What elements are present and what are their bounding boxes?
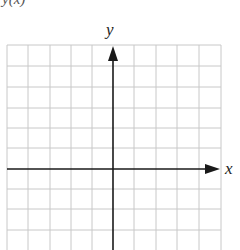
coordinate-grid-figure: y(x) <box>0 0 240 250</box>
grid-lines <box>7 45 221 250</box>
y-axis-label: y <box>106 20 114 40</box>
grid-svg <box>0 0 240 250</box>
x-axis-label: x <box>225 159 233 179</box>
x-axis-arrow-icon <box>205 164 220 174</box>
y-axis-arrow-icon <box>108 46 118 61</box>
